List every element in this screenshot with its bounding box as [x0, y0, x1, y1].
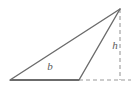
long-side-segment	[10, 9, 120, 80]
height-label: h	[112, 39, 118, 51]
base-label: b	[47, 60, 53, 72]
triangle-diagram: b h	[0, 0, 138, 96]
triangle-diagram-canvas: b h	[0, 0, 138, 96]
